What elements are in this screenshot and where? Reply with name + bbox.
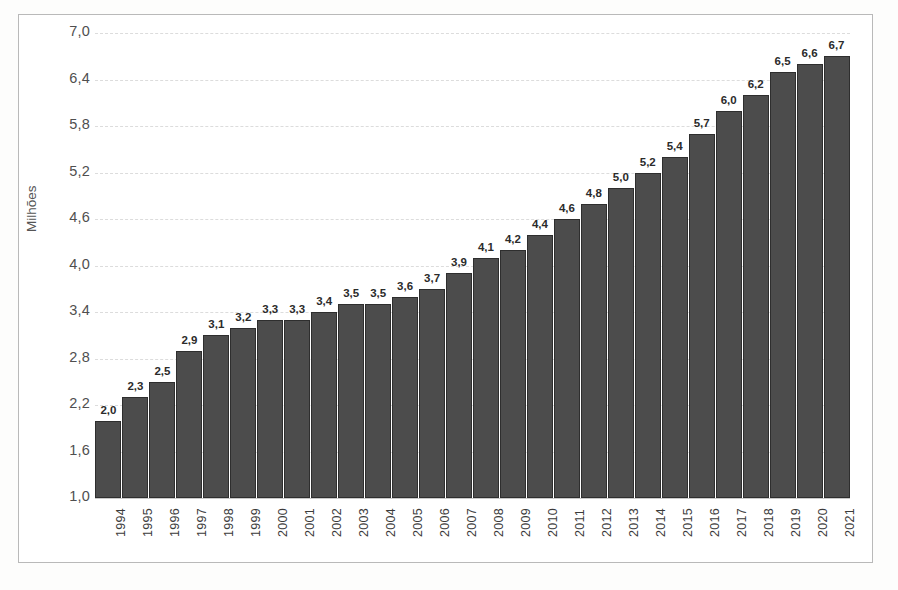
bar[interactable] [365, 304, 391, 498]
x-axis-tick-label: 2019 [789, 508, 803, 537]
bar-slot: 6,2 [743, 33, 769, 498]
x-axis-tick-label: 1997 [195, 508, 209, 537]
bar[interactable] [446, 273, 472, 498]
x-axis-tick-label: 2017 [735, 508, 749, 537]
x-axis-tick-label: 2001 [303, 508, 317, 537]
bar[interactable] [95, 421, 121, 499]
y-axis-tick-label: 5,8 [30, 116, 90, 132]
x-axis-tick-label: 2002 [330, 508, 344, 537]
y-axis-tick-label: 1,0 [30, 488, 90, 504]
bar-slot: 4,4 [527, 33, 553, 498]
x-axis-tick-label: 2016 [708, 508, 722, 537]
plot-area: 2,02,32,52,93,13,23,33,33,43,53,53,63,73… [95, 33, 850, 498]
bar-slot: 2,5 [149, 33, 175, 498]
bar[interactable] [473, 258, 499, 498]
y-axis-tick-label: 1,6 [30, 442, 90, 458]
y-axis-tick-labels: 7,06,45,85,24,64,03,42,82,21,61,0 [0, 0, 90, 590]
x-axis-tick-label: 2018 [762, 508, 776, 537]
bar-slot: 3,5 [338, 33, 364, 498]
x-axis-tick-label: 2011 [573, 509, 587, 537]
y-axis-tick-label: 2,8 [30, 349, 90, 365]
x-axis-tick-label: 2020 [816, 508, 830, 537]
bar-slot: 4,8 [581, 33, 607, 498]
bar[interactable] [257, 320, 283, 498]
x-axis-tick-label: 2012 [600, 508, 614, 537]
bar-slot: 6,7 [824, 33, 850, 498]
bar[interactable] [608, 188, 634, 498]
bar-slot: 3,9 [446, 33, 472, 498]
chart-page: Milhões 7,06,45,85,24,64,03,42,82,21,61,… [0, 0, 898, 590]
x-axis-tick-label: 2000 [276, 508, 290, 537]
x-axis-tick-label: 1996 [168, 508, 182, 537]
x-axis-tick-label: 1995 [141, 508, 155, 537]
bar[interactable] [581, 204, 607, 499]
bar[interactable] [311, 312, 337, 498]
bar-slot: 6,0 [716, 33, 742, 498]
y-axis-tick-label: 4,6 [30, 209, 90, 225]
bar[interactable] [203, 335, 229, 498]
x-axis-tick-label: 2004 [384, 508, 398, 537]
x-axis-tick-label: 2014 [654, 508, 668, 537]
bar-slot: 3,4 [311, 33, 337, 498]
bar-slot: 6,5 [770, 33, 796, 498]
x-axis-tick-label: 2009 [519, 508, 533, 537]
bar[interactable] [770, 72, 796, 498]
bar-slot: 4,2 [500, 33, 526, 498]
bar[interactable] [122, 397, 148, 498]
y-axis-tick-label: 5,2 [30, 163, 90, 179]
bar[interactable] [230, 328, 256, 499]
bar-slot: 3,2 [230, 33, 256, 498]
x-axis-tick-label: 2021 [843, 508, 857, 537]
bar[interactable] [743, 95, 769, 498]
y-axis-tick-label: 2,2 [30, 395, 90, 411]
bar[interactable] [527, 235, 553, 499]
bar-slot: 2,9 [176, 33, 202, 498]
bar[interactable] [662, 157, 688, 498]
bar[interactable] [149, 382, 175, 498]
bar[interactable] [338, 304, 364, 498]
bar[interactable] [824, 56, 850, 498]
bar-slot: 3,1 [203, 33, 229, 498]
x-axis-tick-label: 2005 [411, 508, 425, 537]
bar[interactable] [797, 64, 823, 498]
bar[interactable] [635, 173, 661, 499]
x-axis-tick-label: 2015 [681, 508, 695, 537]
bar[interactable] [392, 297, 418, 499]
x-axis-tick-label: 2007 [465, 508, 479, 537]
bar[interactable] [554, 219, 580, 498]
y-axis-tick-label: 4,0 [30, 256, 90, 272]
bar-slot: 3,3 [257, 33, 283, 498]
bar-slot: 2,0 [95, 33, 121, 498]
y-axis-tick-label: 3,4 [30, 302, 90, 318]
bar[interactable] [176, 351, 202, 498]
bar-slot: 3,5 [365, 33, 391, 498]
x-axis-line [95, 498, 850, 499]
x-axis-tick-label: 2008 [492, 508, 506, 537]
bar-slot: 5,2 [635, 33, 661, 498]
bar-slot: 3,3 [284, 33, 310, 498]
bar-slot: 4,6 [554, 33, 580, 498]
bar[interactable] [284, 320, 310, 498]
x-axis-tick-label: 1998 [222, 508, 236, 537]
bar[interactable] [716, 111, 742, 499]
x-axis-tick-label: 1994 [114, 508, 128, 537]
x-axis-tick-label: 2013 [627, 508, 641, 537]
bar[interactable] [419, 289, 445, 498]
bar-slot: 4,1 [473, 33, 499, 498]
bar[interactable] [689, 134, 715, 498]
x-axis-tick-label: 1999 [249, 508, 263, 537]
bar-value-label: 6,7 [817, 39, 857, 51]
x-axis-tick-label: 2003 [357, 508, 371, 537]
x-axis-tick-label: 2010 [546, 508, 560, 537]
bar[interactable] [500, 250, 526, 498]
bar-slot: 5,0 [608, 33, 634, 498]
bar-slot: 6,6 [797, 33, 823, 498]
bar-slot: 5,4 [662, 33, 688, 498]
bar-slot: 2,3 [122, 33, 148, 498]
bar-slot: 3,6 [392, 33, 418, 498]
x-axis-tick-label: 2006 [438, 508, 452, 537]
y-axis-tick-label: 7,0 [30, 23, 90, 39]
y-axis-tick-label: 6,4 [30, 70, 90, 86]
